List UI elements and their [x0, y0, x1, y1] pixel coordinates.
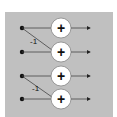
plus-icon: +	[57, 68, 65, 84]
butterfly-diagram: -1 -1 + + + +	[0, 0, 117, 117]
weight-label-1: -1	[30, 37, 38, 46]
plus-icon: +	[57, 44, 65, 60]
plus-icon: +	[57, 91, 65, 107]
plus-icon: +	[57, 20, 65, 36]
weight-label-2: -1	[32, 84, 40, 93]
